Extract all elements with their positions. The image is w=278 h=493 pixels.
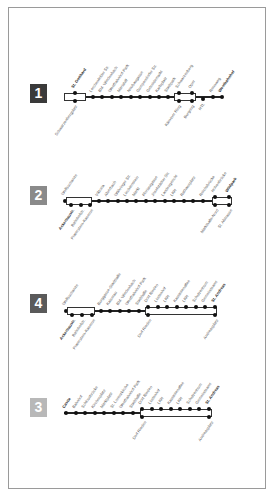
stop-marker [99,309,103,313]
stop-marker [190,91,194,95]
stop-marker [159,407,163,411]
stop-marker [106,199,110,203]
stop-marker [190,99,194,103]
stop-marker [127,309,131,313]
stop-marker [69,203,73,207]
stop-marker [73,91,77,95]
stop-marker [213,195,217,199]
stop-label: LKH [181,294,190,303]
stop-marker [90,313,94,317]
stop-label: Burgring [182,104,195,119]
stop-marker [169,407,173,411]
stop-marker [194,305,198,309]
stop-marker [172,199,176,203]
stop-marker [79,203,83,207]
line-badge-4: 4 [30,294,47,313]
line-badge-3: 3 [30,398,47,417]
stop-marker [73,99,77,103]
stop-label: Andreasplatz [202,318,219,340]
stop-marker [201,199,205,203]
stop-label: HTL [198,102,206,111]
stop-marker [64,411,68,415]
stop-marker [201,97,205,101]
stop-label: Wolfsschanze [61,283,79,306]
stop-marker [148,95,152,99]
stop-marker [177,99,181,103]
stop-marker [118,309,122,313]
stop-marker [93,411,97,415]
stop-marker [188,407,192,411]
stop-marker [207,407,211,411]
line-badge-2: 2 [30,186,47,205]
route-line-4: 4 Wolfsschanze Burggasse-Stadthalle Kais… [0,252,278,362]
stop-label: Rathausplatz [179,175,196,197]
stop-label: Andreasplatz [197,420,214,442]
stop-marker [191,199,195,203]
stop-marker [110,95,114,99]
stop-marker [100,95,104,99]
stop-marker [88,203,92,207]
track-line [196,96,222,98]
stop-marker [97,199,101,203]
stop-marker [166,95,170,99]
stop-marker [119,95,123,99]
stop-label: LKH [169,188,178,197]
stop-marker [140,407,144,411]
stop-marker [182,199,186,203]
route-line-2: 2 Wolfsschanze Viktoria Alserbach Währin… [0,145,278,255]
stop-label: St. Gotthard [70,67,87,89]
stop-marker [157,95,161,99]
stop-marker [146,305,150,309]
stop-label: Oper [187,79,196,89]
stop-marker [125,199,129,203]
stop-marker [129,95,133,99]
stop-marker [163,199,167,203]
stop-label: LKH [175,396,184,405]
stop-marker [207,415,211,419]
stop-marker [184,305,188,309]
stop-marker [83,411,87,415]
stop-label: LKH [162,294,171,303]
stop-marker [227,195,231,199]
stop-marker [137,309,141,313]
stop-label: Kärntner Ring [164,104,182,127]
stop-marker [213,305,217,309]
stop-marker [146,313,150,317]
stop-marker [102,411,106,415]
stop-marker [112,411,116,415]
stop-marker [178,407,182,411]
line-badge-1: 1 [30,84,47,103]
stop-label: Schwarzenbergplatz [53,104,78,137]
stop-marker [134,199,138,203]
stop-label: Wildpark [224,176,238,193]
stop-label: Wolfsschanze [60,173,78,196]
stop-marker [140,415,144,419]
route-line-3: 3 Castle Bahnhof Schlossbrücke Kirchenpl… [0,355,278,465]
stop-marker [150,407,154,411]
stop-label: LKH [156,396,165,405]
stop-marker [108,309,112,313]
stop-label: Dorf Rieden [131,420,147,440]
stop-marker [156,305,160,309]
stop-label: Castle [61,396,72,409]
stop-marker [213,313,217,317]
stop-marker [203,305,207,309]
stop-marker [80,313,84,317]
stop-marker [197,407,201,411]
stop-marker [177,91,181,95]
stop-label: Dorf Rieden [136,318,152,338]
stop-marker [121,411,125,415]
route-line-1: 1 St. Gotthard Lerchenfelder Str. Bhf. W… [0,40,278,150]
stop-marker [144,199,148,203]
stop-marker [91,95,95,99]
stop-marker [153,199,157,203]
stop-marker [211,95,215,99]
stop-marker [131,411,135,415]
stop-marker [227,203,231,207]
stop-marker [70,313,74,317]
stop-marker [213,203,217,207]
stop-marker [175,305,179,309]
stop-label: Markthalle-Nord [199,208,219,234]
stop-marker [165,305,169,309]
stop-marker [138,95,142,99]
